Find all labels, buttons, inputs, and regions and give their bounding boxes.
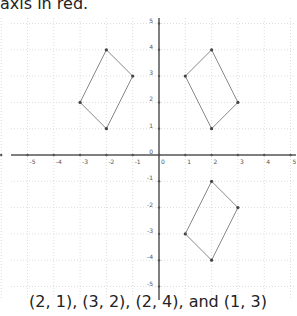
tick-labels: -5-4-3-2-1012345-5-4-3-2-1012345 <box>0 17 296 288</box>
x-tick-label: 2 <box>214 158 218 165</box>
x-tick-mark <box>184 154 186 156</box>
y-tick-mark <box>158 233 160 235</box>
y-tick-label: 0 <box>149 148 153 155</box>
left-quadrilateral <box>80 50 133 129</box>
vertex-point <box>131 75 134 78</box>
y-tick-mark <box>158 180 160 182</box>
x-tick-label: 3 <box>240 158 244 165</box>
x-tick-mark <box>0 154 2 156</box>
x-tick-mark <box>289 154 291 156</box>
y-tick-label: -1 <box>147 174 153 181</box>
vertex-point <box>210 127 213 130</box>
y-tick-label: -3 <box>147 227 153 234</box>
y-tick-mark <box>158 154 160 156</box>
x-tick-label: 0 <box>161 158 165 165</box>
x-tick-mark <box>210 154 212 156</box>
x-tick-mark <box>105 154 107 156</box>
x-tick-label: -5 <box>30 158 36 165</box>
x-tick-label: 5 <box>293 158 297 165</box>
vertex-point <box>236 206 239 209</box>
y-tick-label: -4 <box>147 253 153 260</box>
vertex-point <box>210 180 213 183</box>
y-tick-mark <box>158 101 160 103</box>
vertex-point <box>184 232 187 235</box>
y-tick-mark <box>158 22 160 24</box>
y-tick-label: 2 <box>149 95 153 102</box>
y-tick-label: -5 <box>147 280 153 287</box>
vertex-point <box>105 48 108 51</box>
y-tick-mark <box>158 128 160 130</box>
x-tick-mark <box>79 154 81 156</box>
y-tick-mark <box>158 259 160 261</box>
y-tick-label: 1 <box>149 122 153 129</box>
x-tick-mark <box>132 154 134 156</box>
y-tick-label: -2 <box>147 201 153 208</box>
x-tick-label: 4 <box>266 158 270 165</box>
vertex-point <box>105 127 108 130</box>
vertex-point <box>210 48 213 51</box>
coordinate-plane: -5-4-3-2-1012345-5-4-3-2-1012345 <box>0 0 296 316</box>
y-tick-label: 5 <box>149 17 153 24</box>
x-tick-mark <box>237 154 239 156</box>
y-tick-mark <box>158 75 160 77</box>
x-tick-label: -1 <box>135 158 141 165</box>
y-tick-label: 4 <box>149 43 153 50</box>
x-tick-label: -3 <box>82 158 88 165</box>
vertex-point <box>184 75 187 78</box>
y-tick-mark <box>158 285 160 287</box>
x-tick-label: 1 <box>187 158 191 165</box>
vertex-point <box>210 259 213 262</box>
x-tick-mark <box>26 154 28 156</box>
x-tick-mark <box>263 154 265 156</box>
vertex-point <box>236 101 239 104</box>
lower-right-quadrilateral <box>185 181 238 260</box>
y-tick-label: 3 <box>149 69 153 76</box>
y-tick-mark <box>158 49 160 51</box>
x-tick-label: -4 <box>56 158 62 165</box>
x-tick-label: -2 <box>108 158 114 165</box>
upper-right-quadrilateral <box>185 50 238 129</box>
y-tick-mark <box>158 206 160 208</box>
answer-caption: (2, 1), (3, 2), (2, 4), and (1, 3) <box>0 292 296 311</box>
vertex-point <box>79 101 82 104</box>
x-tick-mark <box>53 154 55 156</box>
